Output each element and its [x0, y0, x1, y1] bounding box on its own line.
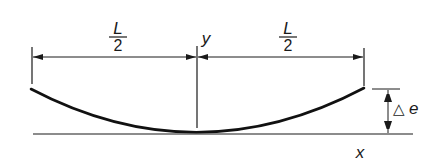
x-axis-label: x	[355, 143, 365, 162]
y-axis-label: y	[201, 29, 212, 48]
delta-e-variable: e	[409, 99, 418, 118]
right-half-denominator: 2	[284, 37, 293, 54]
beam-deflection-diagram: L 2 L 2 y x △ e	[0, 0, 439, 166]
right-half-length-label: L 2	[279, 19, 297, 54]
left-half-length-label: L 2	[109, 19, 127, 54]
left-half-denominator: 2	[114, 37, 123, 54]
left-half-numerator: L	[113, 19, 122, 38]
right-half-numerator: L	[283, 19, 292, 38]
delta-symbol: △	[393, 100, 405, 117]
